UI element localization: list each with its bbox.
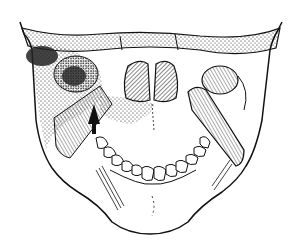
- right-muscle-oval: [202, 66, 238, 94]
- left-orbit-dark: [62, 66, 86, 86]
- right-arch: [238, 76, 246, 110]
- right-nasal-cavity: [154, 61, 178, 101]
- teeth: [96, 137, 210, 185]
- left-nasal-cavity: [124, 61, 150, 101]
- dark-shadow: [26, 46, 58, 66]
- chin-midline: [152, 196, 154, 216]
- chin-hatching: [96, 160, 232, 210]
- skull-illustration: [0, 0, 299, 243]
